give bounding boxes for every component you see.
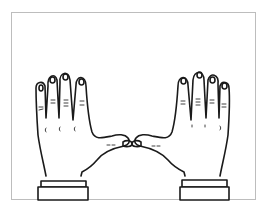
hands-illustration	[0, 0, 266, 207]
left-hand	[36, 73, 132, 200]
right-hand	[132, 72, 229, 200]
